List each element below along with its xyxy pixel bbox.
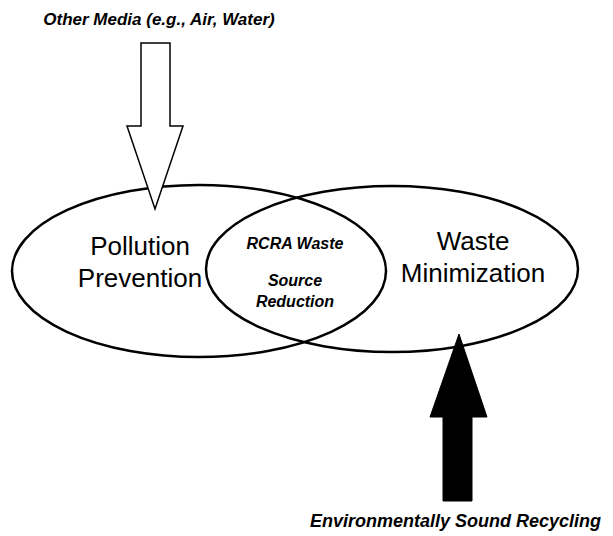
intersection-label: RCRA Waste Source Reduction xyxy=(230,235,360,312)
venn-diagram: Other Media (e.g., Air, Water) Pollution… xyxy=(0,0,613,536)
arrow-down-icon xyxy=(127,43,183,209)
arrow-up-icon xyxy=(430,334,487,501)
pollution-prevention-line2: Prevention xyxy=(60,262,220,294)
waste-minimization-line2: Minimization xyxy=(393,257,553,289)
intersection-line1: RCRA Waste xyxy=(230,235,360,253)
waste-minimization-label: Waste Minimization xyxy=(393,225,553,289)
pollution-prevention-label: Pollution Prevention xyxy=(60,230,220,294)
top-caption: Other Media (e.g., Air, Water) xyxy=(24,11,294,28)
bottom-caption: Environmentally Sound Recycling xyxy=(298,512,613,530)
intersection-line3: Reduction xyxy=(230,291,360,312)
waste-minimization-line1: Waste xyxy=(393,225,553,257)
intersection-line2: Source xyxy=(230,270,360,291)
pollution-prevention-line1: Pollution xyxy=(60,230,220,262)
